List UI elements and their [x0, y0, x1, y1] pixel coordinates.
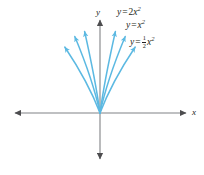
fraction-denominator: 2 [142, 43, 146, 50]
label-op-yhalfx2: = [134, 37, 141, 47]
label-exp-y2x2: 2 [138, 5, 141, 12]
curve-label-y-half-x-squared: y=12x2 [130, 35, 154, 49]
label-fraction-one-half: 12 [142, 35, 146, 49]
y-axis-label: y [96, 8, 100, 17]
label-exp-yx2: 2 [142, 18, 145, 25]
label-op-y2x2: = [121, 7, 128, 17]
parabola-family-figure: y x y=2x2 y=x2 y=12x2 [0, 0, 204, 175]
curve-label-y-2x-squared: y=2x2 [117, 8, 141, 18]
label-op-yx2: = [130, 20, 137, 30]
x-axis-label: x [192, 108, 196, 117]
label-exp-yhalfx2: 2 [151, 35, 154, 42]
plot-canvas [0, 0, 204, 175]
curve-label-y-x-squared: y=x2 [126, 21, 145, 31]
